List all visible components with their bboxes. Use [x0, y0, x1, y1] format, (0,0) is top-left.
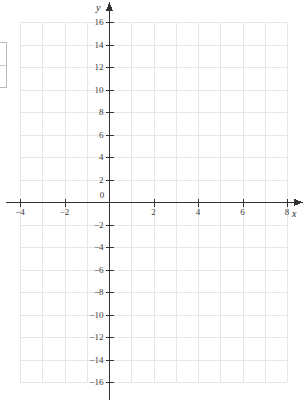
y-tick-label: 10: [95, 85, 104, 94]
y-tick-label: −2: [94, 220, 104, 229]
y-tick-label: −16: [89, 378, 103, 387]
y-tick-label: −14: [89, 355, 103, 364]
y-tick-label: −8: [94, 288, 104, 297]
x-axis-label: x: [292, 209, 296, 219]
x-tick-label: 4: [196, 208, 201, 217]
y-tick-label: 16: [95, 18, 104, 27]
x-tick-label: −2: [60, 208, 70, 217]
x-tick-label: 2: [151, 208, 156, 217]
axis-lines: [0, 0, 306, 405]
y-tick-label: −12: [89, 333, 103, 342]
x-tick-label: 6: [240, 208, 245, 217]
y-tick-label: 6: [99, 130, 104, 139]
y-tick-label: 2: [99, 175, 104, 184]
y-tick-label: 4: [99, 153, 104, 162]
y-tick-label: 12: [95, 63, 104, 72]
y-tick-label: 8: [99, 108, 104, 117]
x-tick-label: 0: [100, 191, 105, 200]
x-tick-label: 8: [285, 208, 290, 217]
y-axis-label: y: [96, 3, 100, 13]
y-tick-label: −4: [94, 243, 104, 252]
y-tick-label: −10: [89, 310, 103, 319]
graph-canvas: −4−202468161412108642−2−4−6−8−10−12−14−1…: [0, 0, 306, 405]
y-tick-label: 14: [95, 40, 104, 49]
x-tick-label: −4: [15, 208, 25, 217]
y-tick-label: −6: [94, 265, 104, 274]
coordinate-plane: −4−202468161412108642−2−4−6−8−10−12−14−1…: [0, 0, 306, 405]
